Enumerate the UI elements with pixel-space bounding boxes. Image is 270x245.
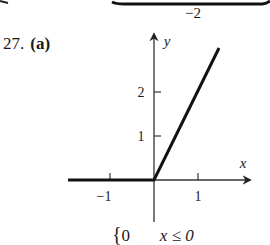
y-tick-label-2: 2: [138, 85, 145, 100]
chart-plot: −1 1 1 2 x y: [0, 0, 270, 245]
piecewise-value: 0: [122, 226, 131, 245]
x-axis-label: x: [239, 155, 247, 171]
function-line: [68, 48, 219, 180]
x-tick-label-neg1: −1: [97, 189, 112, 204]
x-tick-label-1: 1: [195, 189, 202, 204]
piecewise-definition-fragment: {0 x ≤ 0: [112, 226, 194, 244]
piecewise-brace: {: [112, 223, 122, 245]
y-tick-label-1: 1: [138, 129, 145, 144]
y-axis-label: y: [162, 33, 171, 49]
piecewise-condition: x ≤ 0: [160, 226, 194, 245]
